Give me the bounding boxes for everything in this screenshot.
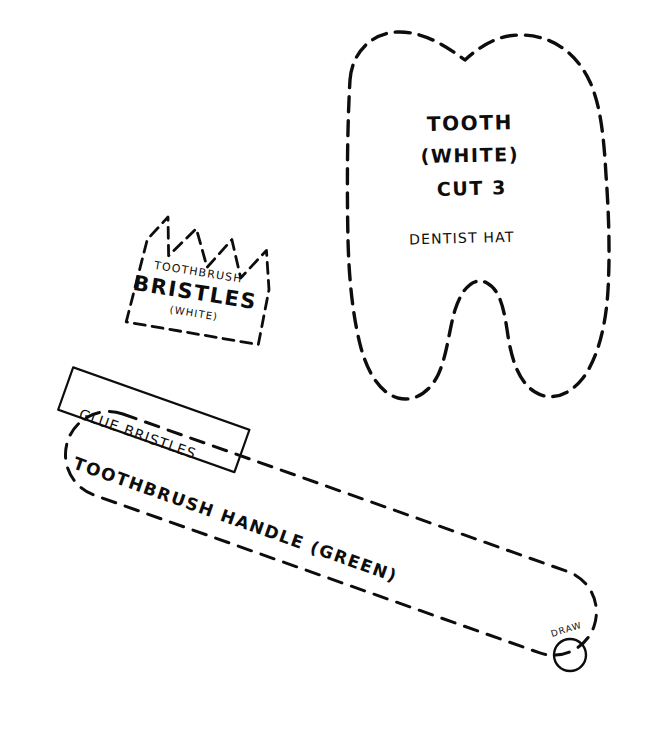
tooth-label-line1: TOOTH [427,110,514,136]
paper-background [0,0,658,730]
tooth-label-line2: (WHITE) [420,143,519,167]
pattern-drawing: TOOTH (WHITE) CUT 3 DENTIST HAT TOOTHBRU… [0,0,658,730]
tooth-label-line4: DENTIST HAT [409,229,515,248]
pattern-sheet: TOOTH (WHITE) CUT 3 DENTIST HAT TOOTHBRU… [0,0,658,730]
tooth-label-line3: CUT 3 [436,176,507,200]
